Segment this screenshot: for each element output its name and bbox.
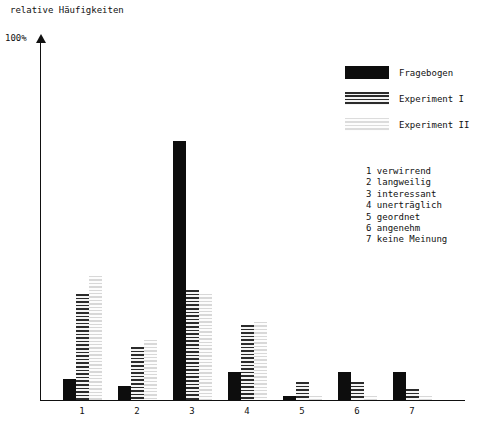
bar-5-series-3 (309, 396, 322, 400)
x-tick-label-1: 1 (72, 406, 92, 416)
bar-group-1 (63, 45, 102, 400)
legend-item-1: Fragebogen (345, 66, 469, 79)
category-key-2: 2 langweilig (366, 177, 447, 188)
bar-7-series-3 (419, 396, 432, 400)
bar-chart: relative Häufigkeiten 100% 1234567 Frage… (0, 0, 491, 427)
legend-item-2: Experiment I (345, 92, 469, 105)
category-key-list: 1 verwirrend2 langweilig3 interessant4 u… (366, 166, 447, 246)
bar-1-series-1 (63, 379, 76, 400)
category-key-5: 5 geordnet (366, 212, 447, 223)
category-key-7: 7 keine Meinung (366, 234, 447, 245)
y-axis-max-label: 100% (5, 33, 27, 43)
bar-group-4 (228, 45, 267, 400)
legend-label-3: Experiment II (399, 120, 469, 130)
bar-2-series-1 (118, 386, 131, 400)
bar-2-series-3 (144, 340, 157, 400)
bar-2-series-2 (131, 347, 144, 400)
bar-group-2 (118, 45, 157, 400)
bar-1-series-3 (89, 276, 102, 400)
legend-swatch-icon-2 (345, 92, 389, 105)
legend-label-1: Fragebogen (399, 68, 453, 78)
bar-6-series-1 (338, 372, 351, 400)
x-tick-label-5: 5 (292, 406, 312, 416)
bar-6-series-3 (364, 396, 377, 400)
legend-item-3: Experiment II (345, 118, 469, 131)
bar-1-series-2 (76, 294, 89, 401)
x-axis-line (40, 400, 465, 401)
bar-3-series-3 (199, 294, 212, 401)
bar-group-3 (173, 45, 212, 400)
x-tick-label-7: 7 (402, 406, 422, 416)
bar-7-series-1 (393, 372, 406, 400)
category-key-4: 4 unerträglich (366, 200, 447, 211)
bar-4-series-2 (241, 325, 254, 400)
legend-label-2: Experiment I (399, 94, 464, 104)
category-key-3: 3 interessant (366, 189, 447, 200)
bar-7-series-2 (406, 389, 419, 400)
category-key-6: 6 angenehm (366, 223, 447, 234)
bar-4-series-3 (254, 322, 267, 400)
x-tick-label-3: 3 (182, 406, 202, 416)
x-tick-label-4: 4 (237, 406, 257, 416)
bar-5-series-2 (296, 382, 309, 400)
legend-swatch-icon-1 (345, 66, 389, 79)
category-key-1: 1 verwirrend (366, 166, 447, 177)
bar-6-series-2 (351, 382, 364, 400)
bar-4-series-1 (228, 372, 241, 400)
x-tick-label-2: 2 (127, 406, 147, 416)
bar-5-series-1 (283, 396, 296, 400)
x-tick-label-6: 6 (347, 406, 367, 416)
bar-3-series-1 (173, 141, 186, 400)
y-axis-arrow-icon (36, 34, 46, 43)
y-axis-title: relative Häufigkeiten (10, 5, 124, 15)
bar-group-5 (283, 45, 322, 400)
legend-swatch-icon-3 (345, 118, 389, 131)
legend: FragebogenExperiment IExperiment II (345, 66, 469, 144)
bar-3-series-2 (186, 290, 199, 400)
